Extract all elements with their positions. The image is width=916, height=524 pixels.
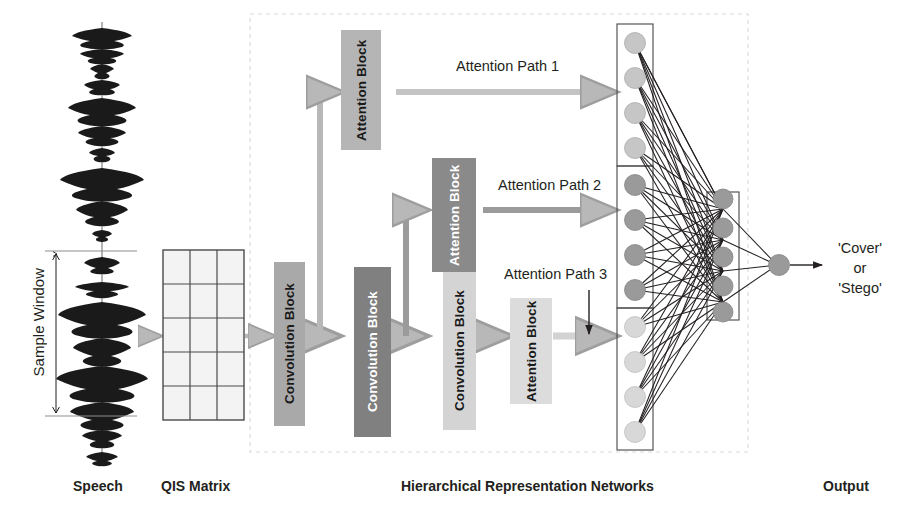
branch-to-attn1 (320, 92, 340, 336)
attention-path-1-label: Attention Path 1 (456, 58, 559, 74)
output-line-stego: 'Stego' (822, 278, 898, 298)
figure-canvas: Attention Block Attention Block Attentio… (0, 0, 916, 524)
output-result-text: 'Cover' or 'Stego' (822, 238, 898, 298)
input-node-group-3 (625, 317, 646, 443)
speech-waveform (56, 22, 148, 466)
output-node (769, 255, 790, 276)
caption-hrn: Hierarchical Representation Networks (401, 478, 654, 494)
hrn-dashed-container (250, 14, 748, 452)
sample-window-label: Sample Window (30, 268, 47, 376)
caption-output: Output (823, 478, 869, 494)
neural-network (617, 24, 822, 450)
output-line-cover: 'Cover' (822, 238, 898, 258)
attention-path-2-label: Attention Path 2 (498, 177, 601, 193)
input-node-group-2 (625, 175, 646, 301)
caption-speech: Speech (73, 478, 123, 494)
qis-matrix-grid (163, 250, 244, 420)
branch-to-attn2 (406, 210, 426, 336)
caption-qis-matrix: QIS Matrix (161, 478, 230, 494)
hidden-node-layer (713, 189, 733, 322)
diagram-svg (0, 0, 916, 524)
output-line-or: or (822, 258, 898, 278)
network-edges-input-hidden (635, 43, 723, 432)
attention-path-3-label: Attention Path 3 (504, 266, 607, 282)
